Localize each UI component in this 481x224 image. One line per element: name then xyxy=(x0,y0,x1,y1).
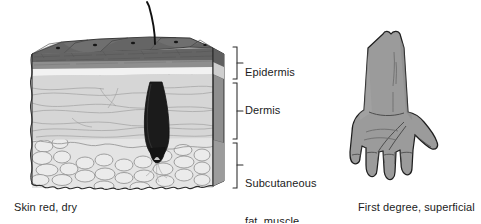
skin-block-group xyxy=(30,2,224,192)
subcutaneous-layer xyxy=(30,136,216,192)
bracket-dermis xyxy=(233,83,243,139)
bracket-group xyxy=(233,47,243,188)
dermis-front-face xyxy=(30,74,216,144)
caption-skin-appearance: Skin red, dry xyxy=(14,201,77,213)
label-subcutaneous-line2: fat, muscle xyxy=(245,215,317,224)
label-subcutaneous: Subcutaneous fat, muscle xyxy=(245,152,317,223)
arm-group xyxy=(350,31,438,179)
bracket-subcutaneous xyxy=(233,143,243,188)
bracket-epidermis xyxy=(233,47,243,79)
label-subcutaneous-line1: Subcutaneous xyxy=(245,177,317,190)
illustration-canvas xyxy=(0,0,481,223)
block-left-edge xyxy=(31,54,32,184)
label-dermis: Dermis xyxy=(245,104,280,117)
caption-burn-classification: First degree, superficial xyxy=(358,201,475,213)
label-epidermis: Epidermis xyxy=(245,66,295,79)
burn-illustration-figure: Epidermis Dermis Subcutaneous fat, muscl… xyxy=(0,0,481,223)
block-right-side-face xyxy=(213,48,224,186)
